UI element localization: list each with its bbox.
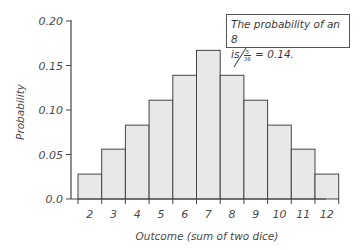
bar-3 <box>102 149 126 199</box>
annotation-line-2: is 5 36 = 0.14. <box>231 47 345 62</box>
y-tick-label: 0.0 <box>46 193 64 206</box>
annotation-line-1: The probability of an 8 <box>231 17 345 47</box>
x-tick-label: 9 <box>252 208 259 221</box>
x-tick-label: 7 <box>205 208 212 221</box>
x-tick-label: 6 <box>181 208 188 221</box>
bar-10 <box>268 125 292 199</box>
x-tick-label: 3 <box>110 208 117 221</box>
bar-2 <box>78 174 102 199</box>
x-tick-label: 5 <box>157 208 164 221</box>
bar-5 <box>149 100 173 199</box>
annotation-callout: The probability of an 8 is 5 36 = 0.14. <box>226 14 350 48</box>
bar-9 <box>244 100 268 199</box>
bar-6 <box>173 75 197 199</box>
y-axis-title: Probability <box>14 83 26 140</box>
bar-11 <box>291 149 315 199</box>
bar-12 <box>315 174 339 199</box>
bar-7 <box>197 50 221 199</box>
y-tick-label: 0.15 <box>39 60 64 73</box>
x-tick-label: 11 <box>296 208 310 221</box>
x-axis-title: Outcome (sum of two dice) <box>136 230 279 242</box>
x-tick-label: 4 <box>134 208 141 221</box>
fraction: 5 36 <box>244 49 251 62</box>
y-tick-label: 0.20 <box>39 15 64 28</box>
bar-4 <box>125 125 149 199</box>
x-tick-label: 12 <box>320 208 334 221</box>
x-tick-label: 8 <box>229 208 236 221</box>
x-ticks: 23456789101112 <box>78 199 339 221</box>
x-tick-label: 2 <box>86 208 93 221</box>
y-tick-label: 0.10 <box>39 104 64 117</box>
y-ticks: 0.00.050.100.150.20 <box>39 15 72 206</box>
x-tick-label: 10 <box>272 208 286 221</box>
y-tick-label: 0.05 <box>39 149 64 162</box>
bars-group <box>78 50 339 199</box>
bar-8 <box>220 75 244 199</box>
